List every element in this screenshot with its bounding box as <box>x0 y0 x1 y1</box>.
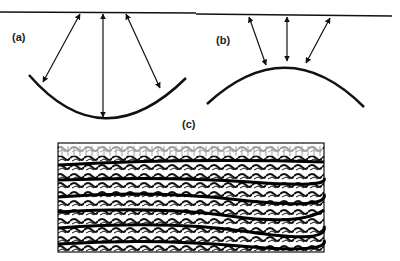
ray-arrow-right-a <box>126 14 160 88</box>
ray-arrow-right-b <box>306 18 330 63</box>
syncline-reflector <box>29 75 186 118</box>
ray-arrow-left-b <box>249 17 266 65</box>
surface-line-a <box>0 12 196 13</box>
panel-label-c: (c) <box>182 118 195 130</box>
panel-label-b: (b) <box>216 34 230 46</box>
panel-a <box>0 12 196 118</box>
anticline-reflector <box>207 68 364 107</box>
ray-arrow-left-a <box>43 14 80 82</box>
panel-b <box>196 14 392 107</box>
surface-line-b <box>196 14 392 16</box>
seismic-section <box>58 143 324 252</box>
panel-label-a: (a) <box>12 31 25 43</box>
diagram-canvas <box>0 0 400 261</box>
